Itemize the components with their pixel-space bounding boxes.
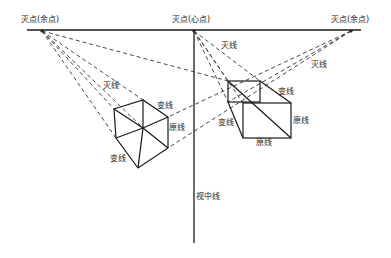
right-cube-vanish-line-label-left: 灭线 — [221, 42, 237, 50]
left-vp-dashed-lines — [42, 31, 228, 138]
left-cube-change-line-label-top: 变线 — [157, 102, 173, 110]
vanishing-point-center-label: 灭点(心点) — [172, 16, 210, 24]
vanishing-point-left-label: 灭点(余点) — [21, 16, 59, 24]
right-cube-vanish-line-label-right: 灭线 — [311, 61, 327, 69]
right-cube-change-line-label-left: 变线 — [218, 119, 234, 127]
right-cube-original-line-label-side: 原线 — [293, 117, 309, 125]
right-cube-original-line-label-bottom: 原线 — [256, 139, 272, 147]
left-cube-change-line-label-bottom: 变线 — [110, 155, 126, 163]
left-cube-vanish-line-label: 灭线 — [103, 82, 119, 90]
right-cube-change-line-label-top: 变线 — [278, 88, 294, 96]
vanishing-point-right-label: 灭点(余点) — [331, 16, 369, 24]
diagram-canvas — [0, 0, 391, 258]
left-cube-original-line-label: 原线 — [169, 124, 185, 132]
sight-line-label: 视中线 — [196, 193, 220, 201]
